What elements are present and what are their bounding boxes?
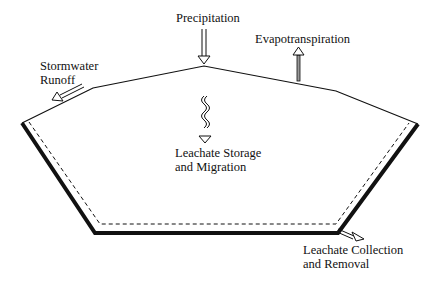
leachate-storage-label-line2: and Migration [175,160,246,174]
leachate-collection-label-line2: and Removal [303,257,369,271]
leachate-collection-label-line1: Leachate Collection [303,243,403,257]
leachate-migration-arrow-icon [199,96,211,143]
landfill-cover-surface [22,66,418,124]
landfill-diagram [0,0,442,281]
stormwater-runoff-label-line2: Runoff [40,73,75,87]
stormwater-runoff-label-line1: Stormwater [40,59,98,73]
leachate-storage-label-line1: Leachate Storage [175,146,261,160]
precipitation-label: Precipitation [176,11,240,25]
bottom-liner [22,123,418,233]
leachate-collection-arrow-icon [337,229,364,241]
evapotranspiration-arrow-icon [293,47,304,81]
precipitation-arrow-icon [198,29,210,64]
evapotranspiration-label: Evapotranspiration [255,32,350,46]
